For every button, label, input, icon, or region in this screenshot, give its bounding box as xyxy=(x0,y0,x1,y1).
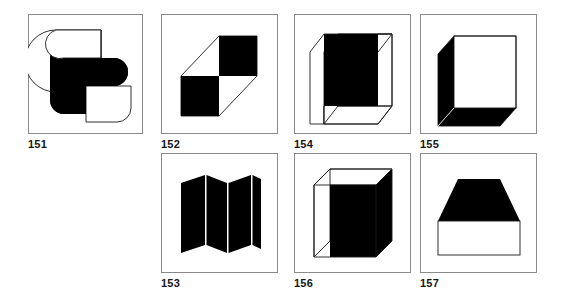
figure-155-artwork xyxy=(420,14,537,134)
black-square-bottom-left xyxy=(181,76,219,116)
box-front-face-black xyxy=(330,185,376,257)
figure-panel-151: 151 xyxy=(28,14,143,134)
figure-157-artwork xyxy=(420,153,537,273)
panel-label-154: 154 xyxy=(294,138,313,150)
panel-label-151: 151 xyxy=(28,138,47,150)
panel-label-157: 157 xyxy=(420,277,439,289)
fold-panel-1 xyxy=(181,175,205,253)
cube-front-face-black xyxy=(324,34,378,106)
rectangle-white xyxy=(438,221,520,255)
figure-panel-156: 156 xyxy=(294,153,411,273)
cube-front-face-white xyxy=(454,36,516,108)
figure-panel-155: 155 xyxy=(420,14,537,134)
fold-panel-4 xyxy=(253,175,262,249)
fold-panel-3 xyxy=(229,175,252,253)
figure-panel-157: 157 xyxy=(420,153,537,273)
cube-left-silhouette xyxy=(310,34,324,124)
fold-panel-2 xyxy=(207,175,228,253)
figure-152-artwork xyxy=(161,14,278,134)
figure-sheet: 151 152 xyxy=(0,0,563,300)
black-square-top-right xyxy=(219,36,257,76)
figure-panel-152: 152 xyxy=(161,14,278,134)
rounded-shape-lower-white xyxy=(86,86,131,122)
upper-square-visible-part xyxy=(45,30,101,59)
cube-helper xyxy=(310,34,324,124)
figure-153-artwork xyxy=(161,153,278,273)
panel-label-153: 153 xyxy=(161,277,180,289)
panel-label-156: 156 xyxy=(294,277,313,289)
trapezoid-black xyxy=(438,179,520,221)
figure-151-artwork xyxy=(28,14,143,134)
figure-panel-153: 153 xyxy=(161,153,278,273)
figure-156-artwork xyxy=(294,153,411,273)
panel-label-155: 155 xyxy=(420,138,439,150)
figure-panel-154: 154 xyxy=(294,14,411,134)
panel-label-152: 152 xyxy=(161,138,180,150)
figure-154-artwork xyxy=(294,14,411,134)
